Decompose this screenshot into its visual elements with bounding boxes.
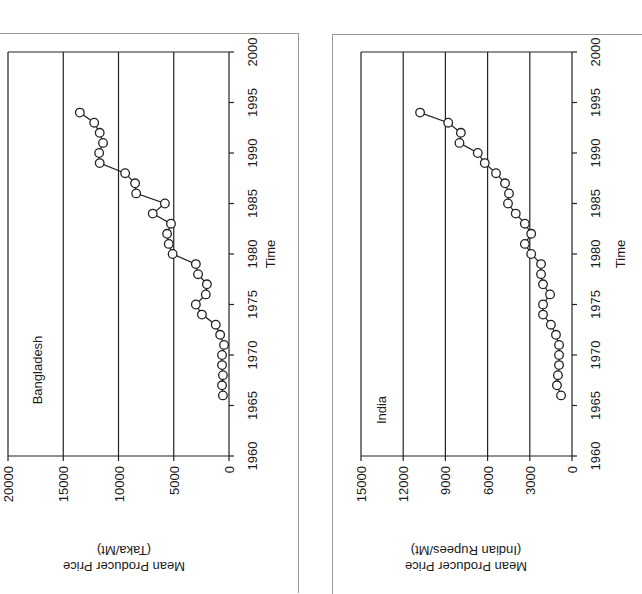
india-price-axis-title-line2: (Indian Rupees/Mt): [411, 543, 522, 558]
bangladesh-data-point: [132, 189, 141, 198]
india-time-ticks: 196019651970197519801985199019952000: [572, 38, 603, 471]
india-time-tick-label: 1970: [588, 341, 603, 370]
bangladesh-price-tick-label: 10000: [112, 466, 127, 502]
bangladesh-data-point: [218, 351, 227, 360]
india-gridlines: [361, 52, 530, 456]
india-data-point: [511, 209, 520, 218]
bangladesh-time-tick-label: 1960: [245, 442, 260, 471]
bangladesh-data-point: [203, 280, 212, 289]
bangladesh-data-point: [198, 310, 207, 319]
india-data-point: [555, 341, 564, 350]
india-price-tick-label: 0: [565, 466, 580, 473]
bangladesh-price-tick-label: 5000: [167, 466, 182, 495]
india-time-tick-label: 1990: [588, 139, 603, 168]
india-price-tick-label: 9000: [438, 466, 453, 495]
bangladesh-time-tick-label: 1980: [245, 240, 260, 269]
india-data-point: [547, 320, 556, 329]
bangladesh-chart: 196019651970197519801985199019952000 050…: [1, 38, 278, 574]
india-data-point: [555, 351, 564, 360]
india-price-tick-label: 12000: [396, 466, 411, 502]
india-data-point: [552, 331, 561, 340]
india-data-point: [527, 250, 536, 259]
india-time-tick-label: 1965: [588, 391, 603, 420]
india-data-point: [537, 270, 546, 279]
india-data-point: [505, 189, 514, 198]
bangladesh-data-point: [148, 209, 157, 218]
bangladesh-data-point: [95, 149, 104, 158]
bangladesh-data-point: [218, 381, 227, 390]
bangladesh-time-tick-label: 1965: [245, 391, 260, 420]
india-data-point: [539, 300, 548, 309]
bangladesh-price-ticks: 05000100001500020000: [1, 466, 237, 502]
bangladesh-price-tick-label: 20000: [1, 466, 16, 502]
india-data-point: [444, 118, 453, 127]
india-data-point: [480, 159, 489, 168]
bangladesh-data-point: [201, 290, 210, 299]
india-axes: [361, 52, 572, 461]
india-data-point: [553, 381, 562, 390]
india-data-point: [554, 371, 563, 380]
bangladesh-data-point: [192, 300, 201, 309]
india-data-point: [555, 361, 564, 370]
bangladesh-data-point: [95, 159, 104, 168]
india-time-tick-label: 1995: [588, 88, 603, 117]
bangladesh-data-point: [95, 129, 104, 138]
bangladesh-price-axis-title-line2: (Taka/Mt): [97, 543, 151, 558]
india-price-axis-title-line1: Mean Producer Price: [405, 559, 527, 574]
bangladesh-data-point: [194, 270, 203, 279]
bangladesh-price-axis-title-line1: Mean Producer Price: [63, 559, 185, 574]
bangladesh-data-point: [167, 219, 176, 228]
bangladesh-time-tick-label: 1995: [245, 88, 260, 117]
india-price-tick-label: 3000: [523, 466, 538, 495]
bangladesh-data-point: [90, 118, 99, 127]
india-data-point: [557, 391, 566, 400]
bangladesh-time-tick-label: 2000: [245, 38, 260, 67]
india-data-point: [539, 280, 548, 289]
india-panel-label: India: [374, 395, 389, 424]
india-series: [416, 108, 566, 399]
india-data-point: [492, 169, 501, 178]
india-data-point: [473, 149, 482, 158]
india-time-tick-label: 2000: [588, 38, 603, 67]
bangladesh-data-point: [219, 371, 228, 380]
india-data-point: [539, 310, 548, 319]
bangladesh-data-point: [216, 331, 225, 340]
bangladesh-data-point: [192, 260, 201, 269]
bangladesh-data-point: [161, 199, 170, 208]
bangladesh-data-point: [220, 341, 229, 350]
india-data-point: [521, 219, 530, 228]
bangladesh-data-point: [76, 108, 85, 117]
india-data-point: [457, 129, 466, 138]
bangladesh-data-point: [163, 230, 172, 239]
bangladesh-data-point: [168, 250, 177, 259]
india-price-tick-label: 6000: [481, 466, 496, 495]
bangladesh-time-tick-label: 1985: [245, 189, 260, 218]
india-price-tick-label: 15000: [354, 466, 369, 502]
india-data-point: [527, 230, 536, 239]
india-time-tick-label: 1960: [588, 442, 603, 471]
bangladesh-time-tick-label: 1990: [245, 139, 260, 168]
bangladesh-time-tick-label: 1975: [245, 290, 260, 319]
india-data-point: [455, 139, 464, 148]
bangladesh-time-axis-title: Time: [263, 240, 278, 268]
india-data-point: [501, 179, 510, 188]
india-series-line: [420, 113, 561, 396]
bangladesh-time-tick-label: 1970: [245, 341, 260, 370]
bangladesh-data-point: [219, 391, 228, 400]
bangladesh-panel-label: Bangladesh: [30, 336, 45, 405]
bangladesh-price-tick-label: 0: [222, 466, 237, 473]
india-time-tick-label: 1985: [588, 189, 603, 218]
bangladesh-price-tick-label: 15000: [56, 466, 71, 502]
bangladesh-data-point: [211, 320, 220, 329]
bangladesh-data-point: [121, 169, 130, 178]
india-chart: 196019651970197519801985199019952000 030…: [354, 38, 628, 574]
bangladesh-series: [76, 108, 229, 399]
india-data-point: [546, 290, 555, 299]
india-time-tick-label: 1975: [588, 290, 603, 319]
bangladesh-data-point: [164, 240, 173, 249]
india-data-point: [521, 240, 530, 249]
india-time-tick-label: 1980: [588, 240, 603, 269]
india-data-point: [416, 108, 425, 117]
india-price-ticks: 03000600090001200015000: [354, 466, 580, 502]
